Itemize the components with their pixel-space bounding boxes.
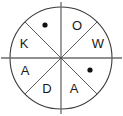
wheel-diagram: O W A D A K [0, 0, 123, 116]
sector-label-left-lower: A [21, 63, 30, 78]
sector-dot-top-left [42, 22, 47, 27]
sector-label-right-upper: W [92, 36, 105, 51]
sector-label-left-upper: K [20, 36, 29, 51]
sector-label-bottom-right: A [70, 81, 79, 96]
sector-dot-right-lower [87, 67, 92, 72]
sector-label-top-right: O [72, 18, 82, 33]
sectored-circle-figure: O W A D A K [0, 0, 123, 116]
sector-label-bottom-left: D [42, 81, 51, 96]
